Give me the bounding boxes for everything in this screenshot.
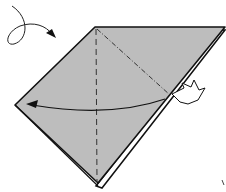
turn-over-arrow bbox=[8, 6, 52, 44]
stray-mark bbox=[222, 180, 224, 185]
turn-over-arrow-head bbox=[46, 29, 56, 38]
origami-diagram bbox=[0, 0, 226, 192]
